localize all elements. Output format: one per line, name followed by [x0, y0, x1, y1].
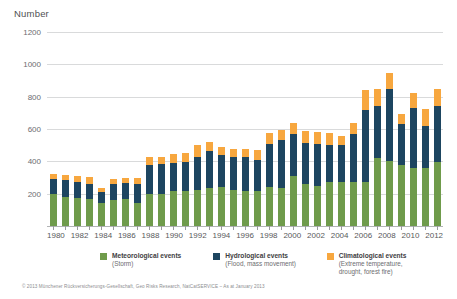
bar-segment[interactable]	[86, 199, 93, 226]
bar-segment[interactable]	[398, 165, 405, 226]
bar-column[interactable]	[179, 32, 191, 226]
bar-column[interactable]	[311, 32, 323, 226]
bar-column[interactable]	[251, 32, 263, 226]
stacked-bar[interactable]	[254, 150, 261, 226]
legend-item[interactable]: Climatological events(Extreme temperatur…	[327, 252, 425, 276]
bar-segment[interactable]	[194, 190, 201, 226]
bar-segment[interactable]	[434, 106, 441, 163]
bar-segment[interactable]	[242, 191, 249, 226]
stacked-bar[interactable]	[302, 131, 309, 226]
bar-segment[interactable]	[230, 149, 237, 157]
bar-segment[interactable]	[182, 191, 189, 226]
bar-segment[interactable]	[254, 150, 261, 160]
bar-column[interactable]	[347, 32, 359, 226]
bar-segment[interactable]	[326, 145, 333, 182]
bar-segment[interactable]	[158, 194, 165, 226]
bar-column[interactable]	[359, 32, 371, 226]
stacked-bar[interactable]	[50, 174, 57, 226]
stacked-bar[interactable]	[122, 178, 129, 226]
bar-column[interactable]	[215, 32, 227, 226]
bar-segment[interactable]	[170, 154, 177, 163]
bar-segment[interactable]	[386, 161, 393, 226]
bar-segment[interactable]	[326, 182, 333, 226]
stacked-bar[interactable]	[110, 179, 117, 226]
stacked-bar[interactable]	[314, 132, 321, 226]
stacked-bar[interactable]	[398, 114, 405, 226]
bar-segment[interactable]	[302, 143, 309, 184]
bar-segment[interactable]	[410, 93, 417, 108]
bar-column[interactable]	[119, 32, 131, 226]
bar-segment[interactable]	[278, 140, 285, 189]
stacked-bar[interactable]	[218, 147, 225, 226]
bar-column[interactable]	[71, 32, 83, 226]
stacked-bar[interactable]	[242, 149, 249, 226]
bar-column[interactable]	[191, 32, 203, 226]
bar-segment[interactable]	[74, 182, 81, 198]
bar-segment[interactable]	[278, 188, 285, 226]
bar-segment[interactable]	[398, 114, 405, 124]
stacked-bar[interactable]	[182, 153, 189, 226]
bar-column[interactable]	[59, 32, 71, 226]
bar-segment[interactable]	[338, 145, 345, 182]
bar-segment[interactable]	[86, 184, 93, 199]
bar-segment[interactable]	[434, 89, 441, 106]
bar-column[interactable]	[167, 32, 179, 226]
bar-segment[interactable]	[314, 144, 321, 187]
bar-column[interactable]	[407, 32, 419, 226]
bar-segment[interactable]	[314, 186, 321, 226]
stacked-bar[interactable]	[338, 136, 345, 226]
bar-segment[interactable]	[50, 194, 57, 226]
bar-column[interactable]	[299, 32, 311, 226]
bar-segment[interactable]	[98, 203, 105, 226]
bar-segment[interactable]	[386, 73, 393, 88]
bar-segment[interactable]	[146, 157, 153, 165]
bar-segment[interactable]	[374, 106, 381, 158]
bar-column[interactable]	[131, 32, 143, 226]
bar-column[interactable]	[227, 32, 239, 226]
bar-segment[interactable]	[290, 176, 297, 226]
stacked-bar[interactable]	[266, 133, 273, 226]
bar-segment[interactable]	[158, 157, 165, 164]
bar-column[interactable]	[395, 32, 407, 226]
bar-segment[interactable]	[362, 90, 369, 110]
bar-segment[interactable]	[146, 194, 153, 226]
stacked-bar[interactable]	[74, 176, 81, 226]
bar-segment[interactable]	[206, 188, 213, 226]
bar-segment[interactable]	[182, 153, 189, 162]
bar-column[interactable]	[419, 32, 431, 226]
bar-segment[interactable]	[266, 144, 273, 187]
bar-segment[interactable]	[374, 158, 381, 226]
bar-column[interactable]	[95, 32, 107, 226]
bar-segment[interactable]	[170, 191, 177, 226]
stacked-bar[interactable]	[158, 157, 165, 227]
bar-segment[interactable]	[422, 126, 429, 168]
bar-column[interactable]	[383, 32, 395, 226]
stacked-bar[interactable]	[146, 157, 153, 227]
bar-segment[interactable]	[350, 134, 357, 183]
bar-segment[interactable]	[398, 124, 405, 164]
bar-column[interactable]	[275, 32, 287, 226]
stacked-bar[interactable]	[410, 93, 417, 226]
bar-segment[interactable]	[290, 134, 297, 176]
bar-segment[interactable]	[410, 108, 417, 168]
bar-segment[interactable]	[218, 187, 225, 226]
bar-segment[interactable]	[206, 142, 213, 151]
stacked-bar[interactable]	[422, 109, 429, 226]
bar-segment[interactable]	[374, 89, 381, 106]
bar-segment[interactable]	[254, 160, 261, 192]
bar-column[interactable]	[371, 32, 383, 226]
bar-segment[interactable]	[290, 123, 297, 134]
bar-segment[interactable]	[110, 200, 117, 226]
bar-segment[interactable]	[422, 109, 429, 126]
bar-column[interactable]	[107, 32, 119, 226]
bar-column[interactable]	[83, 32, 95, 226]
bar-segment[interactable]	[50, 179, 57, 194]
bar-segment[interactable]	[338, 136, 345, 145]
bar-column[interactable]	[323, 32, 335, 226]
stacked-bar[interactable]	[98, 188, 105, 226]
bar-segment[interactable]	[278, 130, 285, 140]
bar-segment[interactable]	[434, 162, 441, 226]
bar-segment[interactable]	[242, 149, 249, 157]
stacked-bar[interactable]	[362, 90, 369, 226]
bar-segment[interactable]	[146, 165, 153, 195]
